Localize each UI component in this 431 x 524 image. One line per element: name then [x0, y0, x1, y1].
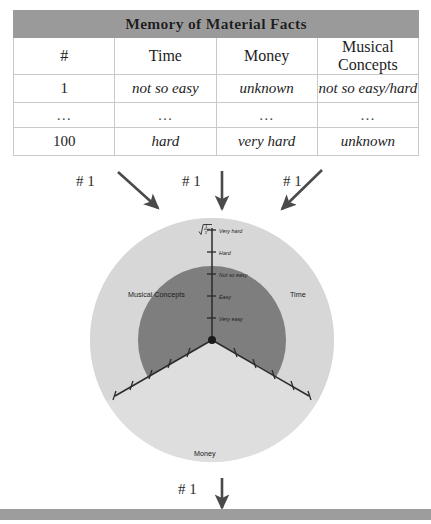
- axis-label-time: Time: [290, 290, 306, 299]
- scale-label-hard: Hard: [219, 250, 232, 256]
- sqrt-denominator: r: [205, 229, 207, 235]
- axis-label-money: Money: [194, 449, 216, 458]
- center-origin-dot: [208, 336, 216, 344]
- radar-chart: Very easy Easy Not so easy Hard Very har…: [0, 0, 431, 524]
- footer-bar: [0, 509, 431, 520]
- scale-label-easy: Easy: [219, 294, 231, 300]
- scale-label-very-hard: Very hard: [219, 228, 243, 234]
- scale-label-not-so-easy: Not so easy: [219, 272, 248, 278]
- scale-label-very-easy: Very easy: [219, 316, 243, 322]
- axis-label-musical-concepts: Musical Concepts: [128, 290, 185, 299]
- page-root: Memory of Material Facts # Time Money Mu…: [0, 0, 431, 524]
